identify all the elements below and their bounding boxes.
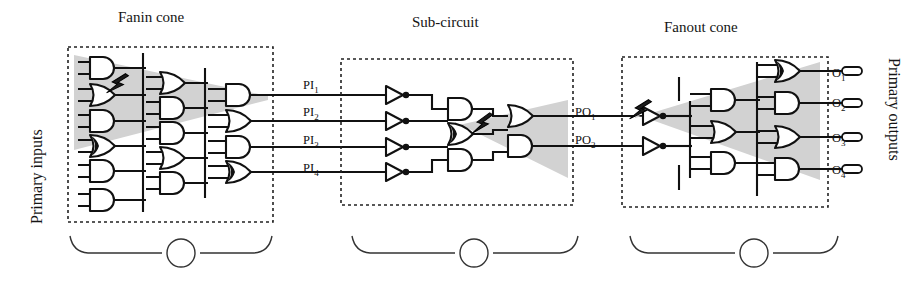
fanin-gate-c1-5 — [78, 160, 146, 182]
sub-circuit-inverter-2 — [356, 112, 448, 130]
output-pin-o3 — [842, 133, 862, 141]
fanout-inverter-2 — [643, 137, 692, 155]
figure-canvas: Fanin cone Sub-circuit Fanout cone Prima… — [0, 0, 921, 284]
fanin-gate-c1-6 — [78, 189, 146, 211]
sub-circuit-inverter-4 — [356, 160, 448, 181]
sub-circuit-block — [341, 59, 573, 205]
brace-circle-b — [460, 239, 488, 267]
primary-output-pins — [828, 67, 862, 173]
brace-c — [630, 236, 838, 267]
fanout-gate-c2-3 — [690, 152, 760, 174]
brace-a — [70, 236, 272, 267]
fanin-gate-c2-4 — [146, 147, 208, 169]
output-pin-o1 — [842, 67, 862, 75]
sub-circuit-inverter-1 — [356, 86, 448, 109]
brace-b — [352, 236, 578, 267]
fanin-cone-block — [68, 47, 300, 222]
circuit-svg: .w{stroke:#111;stroke-width:2.1;fill:non… — [0, 0, 921, 284]
sub-circuit-inverter-3 — [356, 138, 448, 156]
primary-input-wires — [273, 95, 356, 172]
brace-circle-a — [167, 239, 195, 267]
sub-circuit-gate-c2-1 — [448, 98, 508, 120]
output-pin-o4 — [842, 165, 862, 173]
fanout-cone-block — [622, 57, 828, 207]
brace-circle-c — [740, 239, 768, 267]
output-pin-o2 — [842, 99, 862, 107]
sub-circuit-gate-c2-3 — [448, 149, 508, 171]
fanin-gate-c2-5 — [146, 172, 208, 194]
